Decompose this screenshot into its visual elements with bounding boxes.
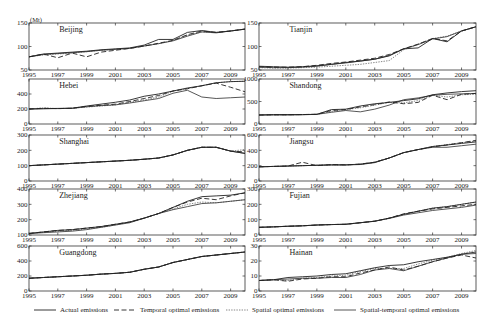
panel-title: Tianjin <box>289 25 312 34</box>
x-tick-label: 2007 <box>426 292 441 300</box>
series-st <box>29 147 245 165</box>
x-tick-label: 2001 <box>339 71 354 79</box>
x-tick-label: 2001 <box>339 125 354 133</box>
x-tick-label: 2007 <box>195 236 210 244</box>
y-tick-label: 400 <box>247 147 258 155</box>
series-st <box>259 93 476 115</box>
y-tick-label: 50 <box>21 66 29 74</box>
x-tick-label: 1997 <box>281 125 296 133</box>
series-temporal <box>259 204 476 227</box>
x-tick-label: 1997 <box>281 71 296 79</box>
x-tick-label: 2003 <box>368 236 383 244</box>
x-tick-label: 2003 <box>368 71 383 79</box>
panel-guangdong: 1995199719992001200320052007200902004006… <box>17 242 245 300</box>
series-actual <box>29 147 245 165</box>
y-tick-label: 200 <box>247 162 258 170</box>
legend-label: Actual emissions <box>60 306 108 314</box>
x-tick-label: 2001 <box>108 292 123 300</box>
x-tick-label: 2005 <box>166 292 181 300</box>
panel-zhejiang: 1995199719992001200320052007200910020030… <box>17 185 245 244</box>
series-st <box>29 200 245 234</box>
y-tick-label: 1000 <box>244 75 259 83</box>
y-tick-label: 0 <box>24 120 28 128</box>
series-actual <box>259 202 476 227</box>
chart-canvas: 1995199719992001200320052007200950100150… <box>0 0 494 329</box>
x-tick-label: 1997 <box>281 292 296 300</box>
y-tick-label: 100 <box>17 231 28 239</box>
x-tick-label: 1997 <box>51 292 66 300</box>
x-tick-label: 1999 <box>80 125 95 133</box>
x-tick-label: 2001 <box>339 292 354 300</box>
y-tick-label: 200 <box>17 272 28 280</box>
x-tick-label: 2007 <box>195 292 210 300</box>
panel-title: Beijing <box>59 25 83 34</box>
x-tick-label: 2007 <box>426 71 441 79</box>
legend-item-temporal: Temporal optimal emissions <box>114 306 219 314</box>
y-tick-label: 50 <box>251 66 259 74</box>
x-tick-label: 2005 <box>397 125 412 133</box>
panel-title: Jiangsu <box>289 137 313 146</box>
x-tick-label: 1997 <box>51 125 66 133</box>
legend-label: Spatial-temporal optimal emissions <box>360 306 459 314</box>
y-tick-label: 300 <box>247 185 258 193</box>
y-tick-label: 100 <box>17 162 28 170</box>
x-tick-label: 1999 <box>310 236 325 244</box>
panel-hebei: 199519971999200120032005200720090200400H… <box>17 79 245 133</box>
y-tick-label: 150 <box>17 19 28 27</box>
panel-shandong: 1995199719992001200320052007200905001000… <box>244 75 477 133</box>
x-tick-label: 1999 <box>310 125 325 133</box>
panel-title: Hebei <box>59 81 79 90</box>
y-tick-label: 300 <box>17 201 28 209</box>
x-tick-label: 2001 <box>108 236 123 244</box>
series-temporal <box>259 93 476 115</box>
y-tick-label: 100 <box>247 216 258 224</box>
y-tick-label: 20 <box>251 257 259 265</box>
x-tick-label: 2009 <box>224 125 239 133</box>
x-tick-label: 1999 <box>80 292 95 300</box>
y-tick-label: 200 <box>247 201 258 209</box>
x-tick-label: 2003 <box>368 292 383 300</box>
panel-hainan: 199519971999200120032005200720090102030H… <box>251 242 477 300</box>
y-tick-label: 400 <box>17 185 28 193</box>
x-tick-label: 1997 <box>51 236 66 244</box>
panels-group: 1995199719992001200320052007200950100150… <box>17 16 476 300</box>
y-tick-label: 300 <box>17 131 28 139</box>
legend: Actual emissionsTemporal optimal emissio… <box>34 306 459 314</box>
y-tick-label: 500 <box>247 98 258 106</box>
x-tick-label: 2007 <box>426 125 441 133</box>
x-tick-label: 2009 <box>224 71 239 79</box>
y-tick-label: 30 <box>251 242 259 250</box>
x-tick-label: 2007 <box>195 71 210 79</box>
panel-title: Zhejiang <box>59 191 87 200</box>
panel-fujian: 1995199719992001200320052007200901002003… <box>247 185 476 244</box>
legend-item-actual: Actual emissions <box>34 306 108 314</box>
x-tick-label: 1997 <box>281 236 296 244</box>
x-tick-label: 2007 <box>195 125 210 133</box>
x-tick-label: 1999 <box>80 71 95 79</box>
x-tick-label: 2003 <box>137 236 152 244</box>
panel-title: Shandong <box>289 81 321 90</box>
y-tick-label: 200 <box>17 105 28 113</box>
y-tick-label: 0 <box>254 120 258 128</box>
legend-item-spatial: Spatial optimal emissions <box>226 306 324 314</box>
x-tick-label: 1999 <box>310 292 325 300</box>
x-tick-label: 2009 <box>455 125 470 133</box>
x-tick-label: 2005 <box>166 236 181 244</box>
series-spatial <box>29 147 245 165</box>
y-tick-label: 0 <box>254 287 258 295</box>
y-tick-label: 0 <box>254 231 258 239</box>
panel-shanghai: 1995199719992001200320052007200901002003… <box>17 131 245 190</box>
y-tick-label: 150 <box>247 19 258 27</box>
y-tick-label: 200 <box>17 147 28 155</box>
x-tick-label: 2003 <box>368 125 383 133</box>
legend-label: Temporal optimal emissions <box>140 306 219 314</box>
x-tick-label: 2005 <box>397 292 412 300</box>
panel-title: Hainan <box>289 248 312 257</box>
unit-label: (Mt) <box>30 16 42 24</box>
x-tick-label: 2007 <box>426 236 441 244</box>
y-tick-label: 0 <box>24 287 28 295</box>
panel-jiangsu: 1995199719992001200320052007200902004006… <box>247 131 476 190</box>
y-tick-label: 100 <box>17 43 28 51</box>
series-temporal <box>29 147 245 165</box>
x-tick-label: 2009 <box>455 236 470 244</box>
